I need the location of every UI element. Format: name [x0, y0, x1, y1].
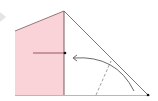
dashed-crease-line [96, 61, 111, 95]
play-icon [0, 12, 6, 22]
diagonal-edge [64, 11, 148, 95]
dot-icon [147, 94, 150, 97]
fold-diagram [0, 0, 158, 101]
curved-arrow-icon [74, 58, 134, 91]
dot-icon [64, 52, 67, 55]
